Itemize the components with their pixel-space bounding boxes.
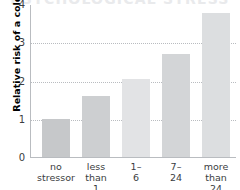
y-axis-label: Relative risk of a cold	[11, 0, 22, 124]
x-tick-label: 1–6	[129, 162, 143, 184]
y-tick-label: 1	[19, 115, 25, 125]
y-tick-label: 4	[19, 0, 25, 10]
y-tick-label: 0	[19, 153, 25, 163]
bar: no stressor	[42, 119, 70, 157]
y-tick-label: 2	[19, 77, 25, 87]
plot-area: 01234no stressorless than 11–67–24more t…	[30, 5, 236, 158]
x-tick-label: more than 24	[204, 162, 229, 190]
bar: less than 1	[82, 96, 110, 157]
x-tick-label: 7–24	[169, 162, 183, 184]
bar-chart: PSYCHOLOGICAL STRESS Relative risk of a …	[0, 0, 240, 190]
bar: 7–24	[162, 54, 190, 157]
x-tick-label: less than 1	[85, 162, 107, 190]
x-axis-line	[30, 157, 236, 158]
bar: more than 24	[202, 13, 230, 157]
x-tick-label: no stressor	[37, 162, 75, 184]
y-tick-label: 3	[19, 38, 25, 48]
bar: 1–6	[122, 79, 150, 157]
